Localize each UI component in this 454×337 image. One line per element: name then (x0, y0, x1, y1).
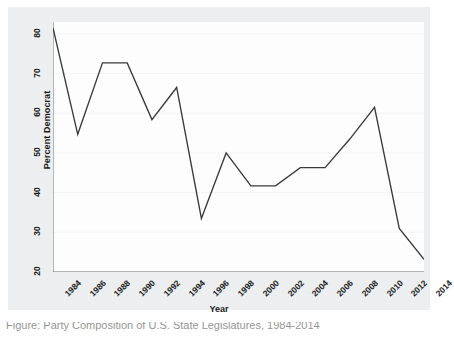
x-tick-label: 2010 (384, 278, 404, 298)
y-tick-label: 40 (32, 181, 42, 203)
x-tick-label: 1986 (87, 278, 107, 298)
x-tick-label: 2008 (359, 278, 379, 298)
y-tick-label: 70 (32, 62, 42, 84)
gridlines (53, 34, 424, 272)
data-series-line (53, 28, 424, 259)
line-chart-svg (53, 22, 424, 272)
y-tick-label: 30 (32, 220, 42, 242)
x-tick-label: 2000 (260, 278, 280, 298)
x-tick-label: 2014 (434, 278, 454, 298)
figure-caption: Figure: Party Composition of U.S. State … (6, 322, 320, 331)
x-axis-title: Year (8, 304, 430, 314)
graph-region: Percent Democrat 20304050607080 19841986… (8, 7, 430, 310)
caption-strip: Figure: Party Composition of U.S. State … (0, 322, 438, 337)
x-tick-label: 1990 (137, 278, 157, 298)
x-tick-label: 1998 (236, 278, 256, 298)
y-tick-label: 60 (32, 101, 42, 123)
x-tick-label: 1984 (63, 278, 83, 298)
x-tick-label: 2004 (310, 278, 330, 298)
y-tick-label: 20 (32, 260, 42, 282)
x-tick-label: 1988 (112, 278, 132, 298)
x-tick-label: 2006 (335, 278, 355, 298)
x-tick-label: 2002 (285, 278, 305, 298)
x-tick-label: 1992 (161, 278, 181, 298)
x-tick-label: 2012 (409, 278, 429, 298)
y-axis-title: Percent Democrat (42, 50, 52, 210)
x-tick-label: 1996 (211, 278, 231, 298)
plot-area: 20304050607080 1984198619881990199219941… (53, 22, 424, 272)
x-tick-label: 1994 (186, 278, 206, 298)
y-tick-label: 50 (32, 141, 42, 163)
y-tick-label: 80 (32, 22, 42, 44)
